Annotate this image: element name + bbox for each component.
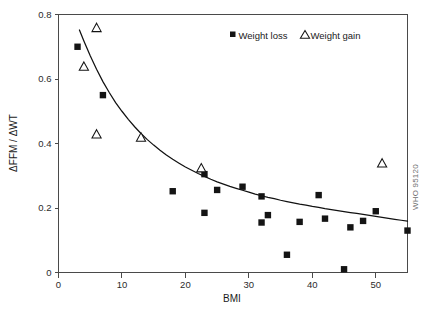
y-tick-label: 0.2 xyxy=(38,202,51,213)
data-point-weight-loss xyxy=(74,44,80,50)
series-weight-gain-markers xyxy=(79,23,386,172)
data-point-weight-loss xyxy=(258,219,264,225)
scatter-plot-svg: 00.20.40.60.8 01020304050 Weight loss We… xyxy=(0,0,429,316)
data-point-weight-gain xyxy=(197,163,206,171)
x-tick-label: 40 xyxy=(307,279,318,290)
data-point-weight-loss xyxy=(341,266,347,272)
data-point-weight-loss xyxy=(373,208,379,214)
data-point-weight-loss xyxy=(322,215,328,221)
legend-label-weight-loss: Weight loss xyxy=(239,30,288,41)
x-axis-title: BMI xyxy=(223,293,241,304)
data-point-weight-loss xyxy=(347,224,353,230)
chart-legend: Weight loss Weight gain xyxy=(230,30,361,41)
watermark-label: WHO 95120 xyxy=(411,164,420,210)
x-axis-ticks: 01020304050 xyxy=(56,273,381,290)
data-point-weight-loss xyxy=(265,212,271,218)
data-point-weight-loss xyxy=(360,218,366,224)
data-point-weight-loss xyxy=(214,187,220,193)
data-point-weight-loss xyxy=(258,193,264,199)
x-tick-label: 30 xyxy=(244,279,255,290)
series-weight-loss-markers xyxy=(74,44,410,273)
data-point-weight-gain xyxy=(378,159,387,167)
y-tick-label: 0.4 xyxy=(38,138,51,149)
fit-curve xyxy=(79,30,407,221)
data-point-weight-gain xyxy=(92,130,101,138)
data-point-weight-loss xyxy=(296,219,302,225)
x-tick-label: 50 xyxy=(370,279,381,290)
data-point-weight-loss xyxy=(315,192,321,198)
chart-figure: 00.20.40.60.8 01020304050 Weight loss We… xyxy=(0,0,429,316)
data-point-weight-loss xyxy=(100,92,106,98)
legend-marker-open-triangle xyxy=(300,31,309,39)
legend-label-weight-gain: Weight gain xyxy=(311,30,361,41)
y-axis-ticks: 00.20.40.60.8 xyxy=(38,9,58,278)
x-tick-label: 0 xyxy=(56,279,61,290)
x-tick-label: 10 xyxy=(117,279,128,290)
x-tick-label: 20 xyxy=(180,279,191,290)
y-axis-title: ΔFFM / ΔWT xyxy=(8,114,19,172)
data-point-weight-loss xyxy=(404,227,410,233)
data-point-weight-loss xyxy=(170,188,176,194)
data-point-weight-loss xyxy=(284,252,290,258)
data-point-weight-loss xyxy=(239,184,245,190)
y-tick-label: 0 xyxy=(46,267,51,278)
y-tick-label: 0.6 xyxy=(38,73,51,84)
legend-marker-filled-square xyxy=(230,32,236,38)
data-point-weight-loss xyxy=(201,210,207,216)
data-point-weight-gain xyxy=(92,23,101,31)
y-tick-label: 0.8 xyxy=(38,9,51,20)
data-point-weight-gain xyxy=(79,62,88,70)
